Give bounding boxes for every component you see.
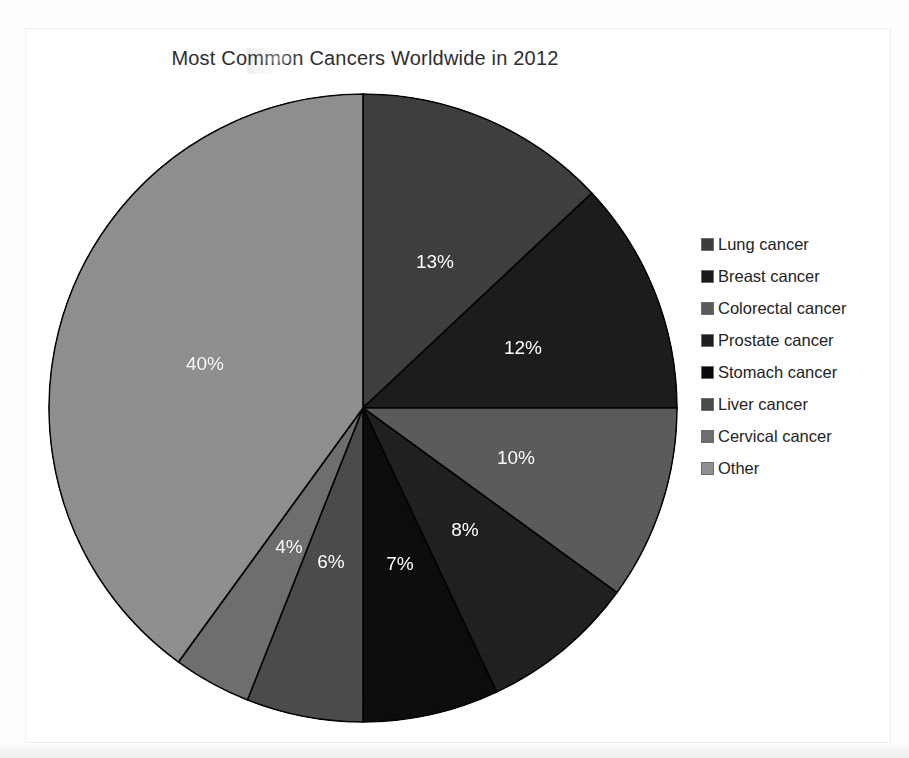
- legend: Lung cancerBreast cancerColorectal cance…: [701, 228, 846, 484]
- legend-item[interactable]: Breast cancer: [701, 260, 846, 292]
- legend-swatch-icon: [701, 238, 714, 251]
- legend-item-label: Colorectal cancer: [718, 300, 846, 317]
- pie-graphic: [48, 93, 678, 723]
- legend-item-label: Stomach cancer: [718, 364, 837, 381]
- legend-swatch-icon: [701, 398, 714, 411]
- pie-chart: [48, 93, 678, 723]
- legend-item-label: Other: [718, 460, 759, 477]
- legend-item-label: Breast cancer: [718, 268, 820, 285]
- page-bottom-shadow: [0, 744, 909, 758]
- legend-item-label: Liver cancer: [718, 396, 808, 413]
- legend-item-label: Prostate cancer: [718, 332, 834, 349]
- legend-item[interactable]: Lung cancer: [701, 228, 846, 260]
- legend-item-label: Lung cancer: [718, 236, 809, 253]
- legend-item[interactable]: Cervical cancer: [701, 420, 846, 452]
- legend-swatch-icon: [701, 270, 714, 283]
- legend-swatch-icon: [701, 302, 714, 315]
- legend-swatch-icon: [701, 334, 714, 347]
- pie-slices-canvas: [48, 93, 678, 723]
- legend-swatch-icon: [701, 366, 714, 379]
- legend-item[interactable]: Colorectal cancer: [701, 292, 846, 324]
- chart-title: Most Common Cancers Worldwide in 2012: [0, 47, 730, 70]
- legend-item[interactable]: Other: [701, 452, 846, 484]
- legend-item[interactable]: Liver cancer: [701, 388, 846, 420]
- legend-swatch-icon: [701, 462, 714, 475]
- scanned-page: Most Common Cancers Worldwide in 2012 13…: [0, 0, 909, 758]
- legend-item[interactable]: Stomach cancer: [701, 356, 846, 388]
- legend-item-label: Cervical cancer: [718, 428, 832, 445]
- legend-swatch-icon: [701, 430, 714, 443]
- legend-item[interactable]: Prostate cancer: [701, 324, 846, 356]
